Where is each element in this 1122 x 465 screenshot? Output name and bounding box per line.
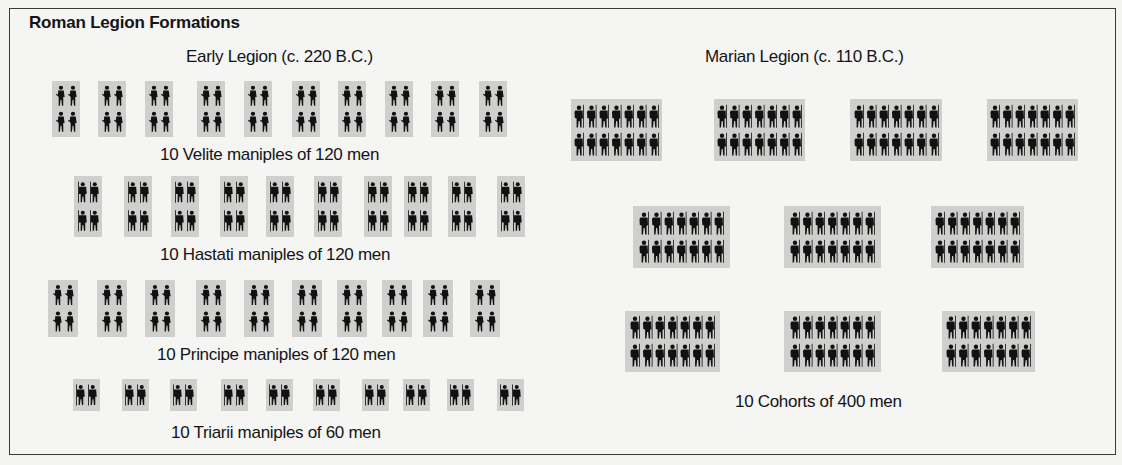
soldier-icon (113, 285, 122, 305)
principes-maniple (244, 280, 274, 337)
cohort-block (942, 311, 1035, 372)
legionary-icon (841, 211, 851, 234)
soldier-icon (439, 311, 448, 331)
soldier-icon (64, 311, 73, 331)
soldier-icon (482, 112, 491, 132)
principes-maniple (337, 280, 367, 337)
legionary-icon (668, 344, 678, 367)
soldier-icon (248, 285, 257, 305)
legionary-icon (743, 132, 753, 155)
spearman-icon (78, 210, 87, 231)
legionary-icon (816, 239, 826, 262)
legionary-icon (1011, 211, 1021, 234)
soldier-icon (353, 285, 362, 305)
soldier-icon (55, 86, 64, 106)
legionary-icon (853, 211, 863, 234)
spearman-icon (282, 210, 291, 231)
legionary-icon (793, 104, 803, 127)
hastati-maniple (220, 176, 248, 237)
legionary-icon (828, 239, 838, 262)
soldier-icon (101, 311, 110, 331)
legionary-icon (665, 211, 675, 234)
soldier-icon (296, 285, 305, 305)
spearman-icon (408, 210, 417, 231)
legionary-icon (650, 132, 660, 155)
cohort-block (784, 206, 881, 268)
spearman-icon (137, 384, 146, 405)
spearman-icon (140, 210, 149, 231)
spearman-icon (185, 384, 194, 405)
soldier-icon (148, 112, 157, 132)
legionary-icon (768, 104, 778, 127)
spearman-icon (224, 210, 233, 231)
legionary-icon (706, 316, 716, 339)
spearman-icon (76, 384, 85, 405)
legionary-icon (650, 104, 660, 127)
soldier-icon (388, 112, 397, 132)
soldier-icon (212, 86, 221, 106)
soldier-icon (259, 112, 268, 132)
legionary-icon (612, 104, 622, 127)
legionary-icon (816, 211, 826, 234)
hastati-caption: 10 Hastati maniples of 120 men (160, 245, 390, 265)
principes-caption: 10 Principe maniples of 120 men (157, 345, 395, 365)
soldier-icon (486, 311, 495, 331)
soldier-icon (55, 112, 64, 132)
legionary-icon (600, 132, 610, 155)
spearman-icon (501, 210, 510, 231)
legionary-icon (828, 316, 838, 339)
legionary-icon (690, 211, 700, 234)
legionary-icon (917, 132, 927, 155)
legionary-icon (702, 239, 712, 262)
legionary-icon (1011, 239, 1021, 262)
triarii-maniple (170, 379, 197, 411)
triarii-maniple (122, 379, 149, 411)
soldier-icon (212, 311, 221, 331)
legionary-icon (791, 316, 801, 339)
spearman-icon (90, 210, 99, 231)
legionary-icon (575, 132, 585, 155)
legionary-icon (892, 104, 902, 127)
cohort-block (625, 311, 720, 372)
soldier-icon (101, 112, 110, 132)
marian-legion-heading: Marian Legion (c. 110 B.C.) (705, 47, 904, 67)
soldier-icon (388, 86, 397, 106)
spearman-icon (128, 210, 137, 231)
legionary-icon (929, 132, 939, 155)
legionary-icon (991, 132, 1001, 155)
soldier-icon (341, 86, 350, 106)
legionary-icon (997, 316, 1007, 339)
legionary-icon (947, 344, 957, 367)
velites-maniple (98, 81, 126, 137)
principes-maniple (292, 280, 322, 337)
legionary-icon (803, 344, 813, 367)
velites-maniple (52, 81, 80, 137)
legionary-icon (947, 316, 957, 339)
soldier-icon (200, 285, 209, 305)
legionary-icon (640, 239, 650, 262)
principes-maniple (48, 280, 78, 337)
soldier-icon (160, 112, 169, 132)
legionary-icon (904, 132, 914, 155)
hastati-maniple (266, 176, 294, 237)
spearman-icon (236, 384, 245, 405)
triarii-maniple (403, 379, 430, 411)
soldier-icon (113, 311, 122, 331)
cohort-block (571, 99, 662, 161)
legionary-icon (984, 316, 994, 339)
soldier-icon (260, 285, 269, 305)
legionary-icon (867, 132, 877, 155)
soldier-icon (64, 285, 73, 305)
soldier-icon (434, 112, 443, 132)
spearman-icon (90, 182, 99, 203)
hastati-maniple (74, 176, 102, 237)
legionary-icon (780, 132, 790, 155)
spearman-icon (88, 384, 97, 405)
spearman-icon (270, 210, 279, 231)
soldier-icon (427, 311, 436, 331)
triarii-maniple (362, 379, 389, 411)
legionary-icon (998, 239, 1008, 262)
spearman-icon (224, 182, 233, 203)
spearman-icon (452, 182, 461, 203)
legionary-icon (841, 316, 851, 339)
